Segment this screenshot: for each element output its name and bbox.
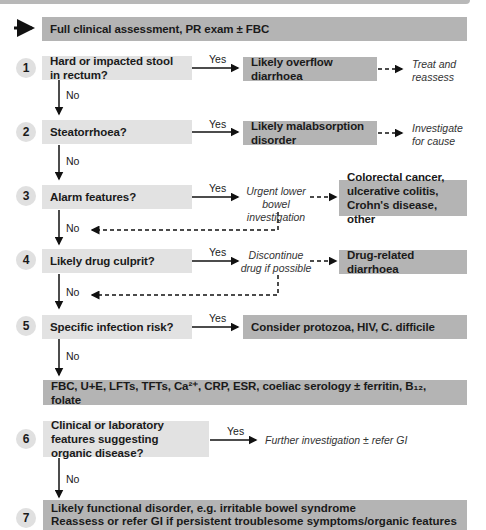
step-number-1: 1 <box>16 58 36 78</box>
action-text-2: Investigate for cause <box>412 122 472 148</box>
outcome-box-2: Likely malabsorption disorder <box>243 121 377 145</box>
step-number-6: 6 <box>16 429 36 449</box>
question-box-2: Steatorrhoea? <box>42 120 192 144</box>
yes-label-6: Yes <box>227 425 244 437</box>
question-box-3: Alarm features? <box>42 185 192 209</box>
yes-label-4: Yes <box>209 246 226 258</box>
outcome-box-5: Consider protozoa, HIV, C. difficile <box>243 315 467 339</box>
yes-label-1: Yes <box>209 53 226 65</box>
no-label-2: No <box>66 155 79 167</box>
start-text: Full clinical assessment, PR exam ± FBC <box>50 22 269 36</box>
action-text-1: Treat and reassess <box>412 58 472 84</box>
outcome-7-line1: Likely functional disorder, e.g. irritab… <box>51 502 459 515</box>
step-number-3: 3 <box>16 186 36 206</box>
action-text-3: Urgent lower bowel investigation <box>240 185 312 224</box>
question-box-5: Specific infection risk? <box>42 315 192 339</box>
no-label-1: No <box>66 89 79 101</box>
outcome-7-line2: Reassess or refer GI if persistent troub… <box>51 515 459 528</box>
outcome-box-7: Likely functional disorder, e.g. irritab… <box>43 500 467 530</box>
step-number-2: 2 <box>16 122 36 142</box>
question-box-1: Hard or impacted stool in rectum? <box>42 56 192 80</box>
yes-label-5: Yes <box>209 312 226 324</box>
no-label-6: No <box>66 473 79 485</box>
question-box-4: Likely drug culprit? <box>42 249 192 273</box>
question-box-6: Clinical or laboratory features suggesti… <box>43 421 209 457</box>
start-box: Full clinical assessment, PR exam ± FBC <box>42 17 467 41</box>
step-number-4: 4 <box>16 250 36 270</box>
yes-label-2: Yes <box>209 118 226 130</box>
yes-label-3: Yes <box>209 182 226 194</box>
no-label-3: No <box>66 222 79 234</box>
step-number-7: 7 <box>16 508 36 528</box>
outcome-box-4: Drug-related diarrhoea <box>339 250 467 274</box>
no-label-4: No <box>66 286 79 298</box>
no-label-5: No <box>66 350 79 362</box>
action-text-6: Further investigation ± refer GI <box>265 434 407 447</box>
outcome-box-3: Colorectal cancer, ulcerative colitis, C… <box>339 180 467 216</box>
tests-box: FBC, U+E, LFTs, TFTs, Ca²⁺, CRP, ESR, co… <box>43 380 467 405</box>
action-text-4: Discontinue drug if possible <box>240 249 312 275</box>
outcome-box-1: Likely overflow diarrhoea <box>243 57 377 81</box>
step-number-5: 5 <box>16 316 36 336</box>
